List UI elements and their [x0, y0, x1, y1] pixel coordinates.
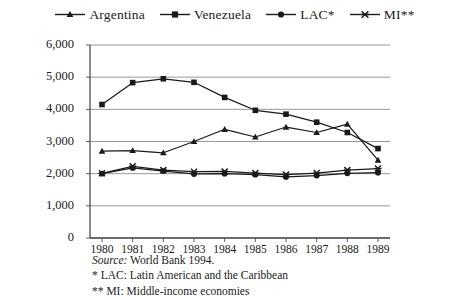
- data-point: [345, 130, 351, 136]
- legend-label-argentina: Argentina: [89, 8, 145, 22]
- argentina-line-marker-icon: [55, 9, 85, 20]
- data-point: [191, 80, 197, 86]
- data-point: [222, 95, 228, 101]
- y-tick-label: 2,000: [14, 167, 74, 180]
- mi-line-marker-icon: [350, 9, 380, 20]
- data-point: [344, 121, 351, 127]
- legend-label-lac: LAC*: [300, 8, 335, 22]
- venezuela-line-marker-icon: [160, 9, 190, 20]
- y-tick-label: 5,000: [14, 70, 74, 83]
- plot-area: [90, 45, 390, 238]
- source-text: World Bank 1994.: [130, 254, 214, 266]
- series-venezuela: [99, 76, 381, 151]
- data-point: [253, 107, 259, 113]
- legend-label-mi: MI**: [384, 8, 415, 22]
- y-tick-label: 6,000: [14, 38, 74, 51]
- data-point: [375, 146, 381, 152]
- y-tick-label: 4,000: [14, 102, 74, 115]
- footnote-lac: * LAC: Latin American and the Caribbean: [92, 268, 422, 283]
- legend-item-venezuela[interactable]: Venezuela: [160, 8, 251, 22]
- data-point: [283, 111, 289, 117]
- series-mi: [98, 163, 381, 177]
- y-tick-label: 0: [14, 231, 74, 244]
- figure-gdp-per-capita: Argentina Venezuela LAC*: [0, 0, 470, 300]
- y-tick-label: 3,000: [14, 135, 74, 148]
- series-line: [102, 79, 378, 149]
- chart-notes: Source: World Bank 1994. * LAC: Latin Am…: [92, 253, 422, 299]
- legend-label-venezuela: Venezuela: [194, 8, 251, 22]
- legend-item-argentina[interactable]: Argentina: [55, 8, 145, 22]
- lac-line-marker-icon: [266, 9, 296, 20]
- footnote-mi: ** MI: Middle-income economies: [92, 284, 422, 299]
- line-chart-canvas: [90, 45, 390, 238]
- data-point: [283, 124, 290, 130]
- legend-item-mi[interactable]: MI**: [350, 8, 415, 22]
- data-point: [99, 102, 105, 108]
- y-tick-label: 1,000: [14, 199, 74, 212]
- y-axis-title: GDP per capita: [0, 0, 12, 47]
- source-label: Source:: [92, 254, 127, 266]
- data-point: [130, 80, 136, 86]
- chart-legend: Argentina Venezuela LAC*: [0, 8, 470, 22]
- source-note: Source: World Bank 1994.: [92, 253, 422, 268]
- data-point: [161, 76, 167, 82]
- legend-item-lac[interactable]: LAC*: [266, 8, 335, 22]
- data-point: [314, 119, 320, 125]
- data-point: [221, 126, 228, 132]
